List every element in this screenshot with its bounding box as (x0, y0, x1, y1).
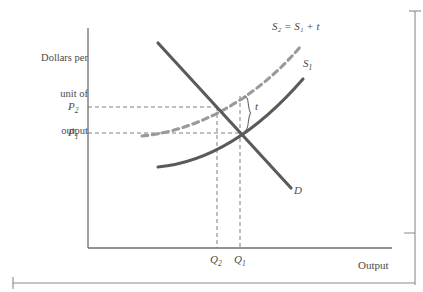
price-tick-p1-sub: 1 (75, 132, 79, 141)
y-axis-title-line-1: Dollars per (22, 52, 88, 64)
supply-after-tax-curve (142, 46, 301, 136)
supply-demand-tax-figure: Dollars per unit of output Output P2 P1 … (0, 0, 423, 292)
y-axis-title-line-2: unit of (22, 88, 88, 100)
supply-original-label-sub: 1 (309, 63, 313, 72)
supply-after-tax-label-text: S₂ = S₁ + t (272, 20, 320, 32)
x-axis-title: Output (358, 259, 389, 272)
tax-wedge-label: t (255, 100, 258, 113)
quantity-tick-q2-sub: 2 (218, 259, 222, 268)
supply-after-tax-label: S₂ = S₁ + t (272, 20, 320, 33)
tax-wedge-brace (245, 96, 251, 131)
demand-curve (158, 43, 291, 188)
price-tick-p2-sub: 2 (75, 106, 79, 115)
price-tick-p1-base: P (68, 126, 75, 138)
supply-original-label-base: S (303, 57, 309, 69)
price-tick-p2-base: P (68, 100, 75, 112)
quantity-tick-q2-base: Q (210, 253, 218, 265)
quantity-tick-q1-sub: 1 (242, 259, 246, 268)
quantity-tick-q1: Q1 (234, 253, 246, 266)
supply-original-label: S1 (303, 57, 312, 70)
demand-label: D (294, 184, 302, 197)
y-axis-title: Dollars per unit of output (22, 28, 88, 161)
quantity-tick-q1-base: Q (234, 253, 242, 265)
price-tick-p1: P1 (68, 126, 78, 139)
guide-lines (88, 96, 240, 248)
quantity-tick-q2: Q2 (210, 253, 222, 266)
price-tick-p2: P2 (68, 100, 78, 113)
